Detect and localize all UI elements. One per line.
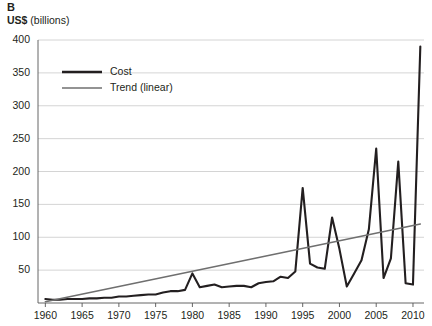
series-line-trend-linear: [45, 224, 420, 302]
y-tick-label: 150: [4, 197, 30, 209]
x-tick-label: 1970: [102, 309, 136, 321]
series-lines: [45, 47, 420, 302]
y-tick-label: 200: [4, 165, 30, 177]
y-tick-label: 50: [4, 263, 30, 275]
x-tick-label: 2010: [396, 309, 430, 321]
x-tick-marks: [45, 303, 413, 307]
y-tick-label: 100: [4, 230, 30, 242]
y-tick-label: 250: [4, 132, 30, 144]
x-tick-label: 1995: [286, 309, 320, 321]
x-tick-label: 1980: [175, 309, 209, 321]
legend-label-trend-linear: Trend (linear): [110, 81, 173, 93]
legend-swatches: [62, 72, 102, 88]
y-tick-label: 300: [4, 99, 30, 111]
x-tick-label: 1965: [65, 309, 99, 321]
x-tick-label: 1990: [249, 309, 283, 321]
legend-label-cost: Cost: [110, 65, 132, 77]
x-tick-label: 1960: [28, 309, 62, 321]
x-tick-label: 2005: [359, 309, 393, 321]
x-tick-label: 1985: [212, 309, 246, 321]
y-tick-label: 350: [4, 66, 30, 78]
y-tick-label: 400: [4, 33, 30, 45]
x-tick-label: 2000: [322, 309, 356, 321]
chart-figure: B US$ (billions) 50100150200250300350400…: [0, 0, 432, 326]
series-line-cost: [45, 47, 420, 300]
x-tick-label: 1975: [139, 309, 173, 321]
plot-area: [0, 0, 432, 326]
